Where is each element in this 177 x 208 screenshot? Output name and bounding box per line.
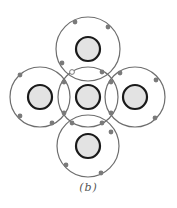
electron (106, 25, 111, 30)
electron (109, 130, 114, 135)
nucleus-top (76, 37, 100, 61)
electron (62, 80, 67, 85)
electron (18, 73, 23, 78)
electron (60, 61, 65, 66)
electron (50, 121, 55, 126)
electron (64, 163, 69, 168)
nucleus-bottom (76, 134, 100, 158)
nucleus-left (28, 85, 52, 109)
electron (73, 20, 78, 25)
electron (70, 70, 75, 75)
electron (153, 116, 158, 121)
electron (70, 121, 75, 126)
electron (100, 70, 105, 75)
electron (100, 121, 105, 126)
nucleus-center (76, 85, 100, 109)
nuclei (28, 37, 147, 158)
electron (109, 80, 114, 85)
electron (109, 111, 114, 116)
electron (154, 78, 159, 83)
electron (118, 71, 123, 76)
nucleus-right (123, 85, 147, 109)
figure-caption: (b) (0, 181, 177, 194)
electron (18, 114, 23, 119)
covalent-bond-diagram (0, 0, 177, 208)
electron (62, 111, 67, 116)
electron (99, 171, 104, 176)
